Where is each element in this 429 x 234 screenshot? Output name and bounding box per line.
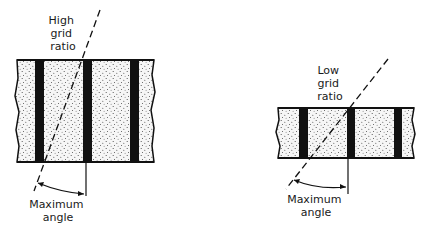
angle-arc — [38, 183, 84, 194]
lead-strip — [347, 108, 355, 158]
lead-strip — [83, 60, 92, 162]
lead-strip — [299, 108, 308, 158]
angle-arc — [294, 180, 346, 188]
lead-strip — [130, 60, 139, 162]
maximum-angle-label: Maximum angle — [287, 193, 345, 219]
panel-label: Low grid ratio — [317, 64, 343, 103]
low-grid-ratio-panel: Low grid ratio Maximum angle — [276, 59, 415, 219]
lead-strip — [35, 60, 44, 162]
grid-ratio-diagram: High grid ratio Maximum angle Low grid r… — [0, 0, 429, 234]
high-grid-ratio-panel: High grid ratio Maximum angle — [15, 10, 155, 224]
lead-strip — [394, 108, 402, 158]
panel-label: High grid ratio — [49, 14, 78, 53]
maximum-angle-label: Maximum angle — [29, 198, 87, 224]
